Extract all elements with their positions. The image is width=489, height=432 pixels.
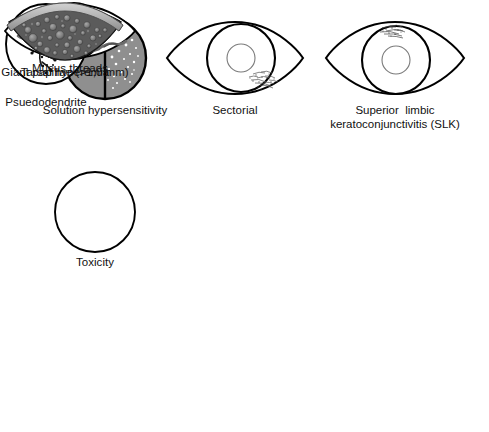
panel-giant-papillae: Giant papillae (>1,0 mm) <box>0 0 130 80</box>
panel-caption: Giant papillae (>1,0 mm) <box>1 66 128 80</box>
panel-caption: Sectorial <box>212 104 257 118</box>
eye-slk-icon <box>320 12 470 104</box>
panel-sectorial: Sectorial <box>160 12 310 118</box>
everted-lid-papillae-icon <box>0 0 130 66</box>
eye-sectorial-icon <box>161 12 309 104</box>
cornea-plain-icon <box>49 168 141 256</box>
panel-caption: Psuedodendrite <box>5 96 86 110</box>
panel-toxicity: Toxicity <box>20 168 170 270</box>
figure-panel-grid: Solution hypersensitivity <box>0 0 489 432</box>
panel-superior-limbic-keratoconjunctivitis: Superior limbic keratoconjunctivitis (SL… <box>305 12 485 131</box>
panel-caption-line-2: keratoconjunctivitis (SLK) <box>330 118 460 132</box>
panel-caption: Toxicity <box>76 256 114 270</box>
panel-caption-line-1: Superior limbic <box>355 104 434 118</box>
